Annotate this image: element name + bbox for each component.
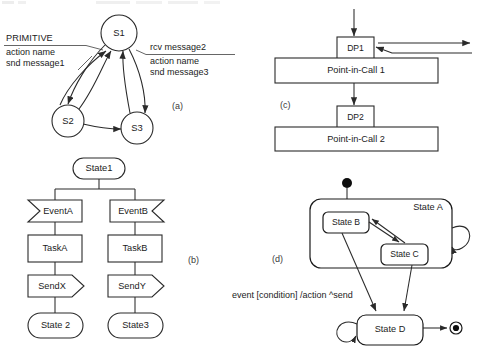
panel-a-node-s1[interactable]: S1: [101, 15, 137, 51]
panel-d-caption: (d): [272, 254, 283, 264]
note-right-leader: [136, 50, 146, 55]
self-transition-stated: [337, 322, 357, 342]
panel-b-caption: (b): [188, 255, 199, 265]
edge-s1-to-s3: [129, 49, 145, 113]
panel-b-fork-connector: [55, 179, 135, 200]
panel-d: State A State B State C event [condition…: [232, 178, 470, 345]
panel-c-returning-arrow: [376, 47, 472, 53]
task-label-taskb: TaskB: [122, 243, 147, 253]
note-right-line2: snd message3: [150, 67, 209, 77]
panel-c: DP1 Point-in-Call 1 DP2 Point-in-Call 2 …: [275, 9, 472, 151]
self-transition-statea: [452, 226, 470, 250]
panel-c-pic-2[interactable]: Point-in-Call 2: [275, 127, 438, 151]
panel-a-node-s2[interactable]: S2: [52, 105, 84, 137]
note-right-line1: action name: [150, 56, 199, 66]
panel-d-substate-b[interactable]: State B: [323, 212, 369, 233]
panel-b-root-state[interactable]: State1: [73, 158, 125, 179]
edge-s2-to-s3: [83, 124, 121, 129]
pic-label-1: Point-in-Call 1: [327, 65, 385, 75]
pic-label-2: Point-in-Call 2: [327, 134, 385, 144]
state-label-statec: State C: [390, 249, 419, 259]
note-left-line2: snd message1: [6, 58, 65, 68]
panel-b: State1 EventA TaskA SendX State 2 EventB…: [28, 158, 199, 338]
task-label-taska: TaskA: [42, 243, 68, 253]
final-state-inner-dot: [453, 325, 459, 331]
page-header-remnant: [2, 1, 220, 4]
dp-label-dp1: DP1: [347, 43, 364, 53]
panel-d-state-d[interactable]: State D: [357, 315, 423, 345]
panel-c-dp-2[interactable]: DP2: [337, 106, 374, 128]
initial-state-dot: [342, 178, 352, 188]
state-label-stateb: State B: [332, 217, 360, 227]
state-label-state2: State 2: [41, 320, 70, 330]
note-left-header: PRIMITIVE: [6, 33, 53, 43]
event-label-eventb: EventB: [118, 206, 148, 216]
panel-a-caption: (a): [172, 101, 183, 111]
note-right-header: rcv message2: [150, 42, 206, 52]
state-label-state1: State1: [85, 162, 112, 173]
node-label-s3: S3: [131, 122, 142, 133]
edge-s2-to-s1: [60, 51, 106, 105]
panel-c-dp-1[interactable]: DP1: [337, 37, 374, 59]
note-left-line1: action name: [6, 47, 55, 57]
state-label-state3: State3: [122, 320, 149, 330]
panel-a-node-s3[interactable]: S3: [121, 112, 153, 144]
panel-c-pic-1[interactable]: Point-in-Call 1: [275, 58, 438, 83]
dp-label-dp2: DP2: [347, 112, 364, 122]
panel-a-note-right: rcv message2 action name snd message3: [136, 42, 235, 77]
node-label-s1: S1: [113, 27, 124, 38]
panel-b-branch-1: EventA TaskA SendX State 2: [28, 200, 84, 338]
transition-label: event [condition] /action ^send: [232, 290, 353, 300]
node-label-s2: S2: [62, 115, 73, 126]
event-label-eventa: EventA: [43, 206, 73, 216]
edge-s3-to-s1: [123, 51, 130, 113]
state-label-statea: State A: [413, 202, 443, 212]
panel-b-branch-2: EventB TaskB SendY State3: [108, 200, 164, 338]
panel-c-caption: (c): [280, 100, 291, 110]
figure-root: PRIMITIVE action name snd message1 rcv m…: [0, 0, 478, 354]
state-label-stated: State D: [375, 324, 406, 334]
send-label-sendx: SendX: [38, 281, 66, 291]
figure-canvas: PRIMITIVE action name snd message1 rcv m…: [0, 0, 478, 354]
panel-a: PRIMITIVE action name snd message1 rcv m…: [4, 15, 235, 144]
panel-d-substate-c[interactable]: State C: [381, 244, 428, 265]
transition-c-to-d: [404, 265, 412, 311]
send-label-sendy: SendY: [118, 281, 146, 291]
